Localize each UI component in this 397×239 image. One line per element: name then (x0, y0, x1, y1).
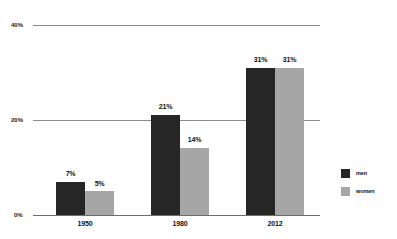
y-axis-tick-40: 40% (11, 22, 23, 28)
x-axis-tick-1950: 1950 (55, 220, 115, 227)
chart-legend: men women (341, 167, 374, 203)
legend-swatch-men-icon (341, 169, 350, 178)
bar-chart: 40% 20% 0% 7% 5% 1950 21% 14% 1980 31% 3… (0, 0, 397, 239)
x-axis-tick-1980: 1980 (150, 220, 210, 227)
y-axis-tick-0: 0% (14, 212, 23, 218)
bar-2012-men[interactable] (246, 68, 275, 215)
bar-label-1950-women: 5% (85, 180, 114, 187)
y-axis-tick-20: 20% (11, 117, 23, 123)
bar-label-1980-women: 14% (180, 136, 209, 143)
bar-label-2012-women: 31% (275, 56, 304, 63)
bar-label-1950-men: 7% (56, 170, 85, 177)
bar-1950-women[interactable] (85, 191, 114, 215)
legend-label-men: men (356, 171, 367, 177)
legend-item-women[interactable]: women (341, 185, 374, 198)
axis-baseline-0 (33, 215, 320, 216)
bar-2012-women[interactable] (275, 68, 304, 215)
legend-item-men[interactable]: men (341, 167, 374, 180)
bar-1980-women[interactable] (180, 148, 209, 215)
gridline-40 (33, 25, 320, 26)
x-axis-tick-2012: 2012 (245, 220, 305, 227)
legend-swatch-women-icon (341, 187, 350, 196)
legend-label-women: women (356, 189, 374, 195)
bar-1950-men[interactable] (56, 182, 85, 215)
bar-1980-men[interactable] (151, 115, 180, 215)
bar-label-1980-men: 21% (151, 103, 180, 110)
bar-label-2012-men: 31% (246, 56, 275, 63)
